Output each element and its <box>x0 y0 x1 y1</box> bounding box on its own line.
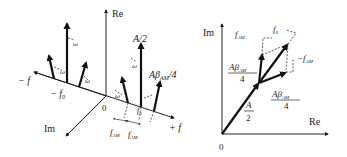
im-axis-label: Im <box>203 27 214 38</box>
carrier-label: A 2 <box>244 100 254 123</box>
f-axis-neg <box>34 72 106 96</box>
rotation-indicator-f0 <box>286 30 296 44</box>
fam-span-right <box>128 121 140 124</box>
fam-tick-left <box>124 103 128 118</box>
carrier-amplitude-label: A/2 <box>132 33 147 44</box>
pos-lower-sideband-vector <box>122 78 128 103</box>
right-phasor-diagram: Im Re 0 fAM f0 −fAM AβAM 4 AβAM 4 <box>203 24 328 152</box>
rotation-symbol: ω <box>85 77 90 85</box>
neg-f-label: − f <box>18 75 31 86</box>
im-axis-label: Im <box>44 123 55 134</box>
rotation-symbol: ω <box>73 40 78 48</box>
im-axis <box>66 96 106 136</box>
neg-lower-sideband-vector <box>49 56 54 79</box>
upper-sideband-label: AβAM 4 <box>228 62 257 84</box>
rotation-indicator-right <box>286 58 293 72</box>
sideband-amplitude-label: AβAM/4 <box>148 69 177 81</box>
lower-sideband-label: AβAM 4 <box>271 89 300 111</box>
origin-label: 0 <box>219 142 224 152</box>
rotation-mark <box>144 95 152 98</box>
neg-carrier-freq-label: − f0 <box>50 88 65 100</box>
rotation-indicator-top <box>262 38 272 55</box>
am-spectrum-figure: ω ω ω ω ω Re Im 0 − f + f − f0 f0 A/2 Aβ… <box>0 0 347 157</box>
svg-text:A: A <box>245 100 252 110</box>
pos-upper-sideband-vector <box>154 82 160 111</box>
origin-label: 0 <box>102 103 107 113</box>
svg-text:AβAM: AβAM <box>271 89 290 100</box>
rotation-symbol: ω <box>132 62 137 70</box>
carrier-phasor <box>222 84 258 134</box>
neg-fam-label: −fAM <box>297 53 314 64</box>
svg-text:AβAM: AβAM <box>228 62 247 73</box>
fam-top-label: fAM <box>235 29 246 40</box>
rotation-symbol: ω <box>60 68 65 76</box>
rotation-symbol: ω <box>115 92 120 100</box>
left-spectrum-diagram: ω ω ω ω ω Re Im 0 − f + f − f0 f0 A/2 Aβ… <box>18 8 182 140</box>
pos-f-label: + f <box>169 122 182 133</box>
fam-tick-right <box>150 111 154 122</box>
f0-label: f0 <box>273 24 279 35</box>
re-axis-label: Re <box>112 8 124 19</box>
fam-span-left <box>115 119 127 121</box>
svg-text:4: 4 <box>240 74 245 84</box>
svg-text:2: 2 <box>246 113 251 123</box>
fam-left-label: fAM <box>110 127 121 138</box>
fam-right-label: fAM <box>128 129 139 140</box>
svg-text:4: 4 <box>284 101 289 111</box>
re-axis-label: Re <box>309 116 321 127</box>
